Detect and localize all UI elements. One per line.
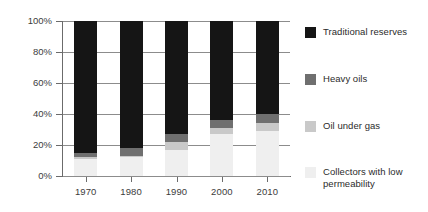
y-tick-label: 80% <box>6 47 52 57</box>
legend-swatch-icon <box>305 27 316 38</box>
bar-2010 <box>256 21 279 176</box>
y-tick-label: 100% <box>6 16 52 26</box>
x-tick-label-1990: 1990 <box>154 187 200 197</box>
bar-segment <box>74 21 97 153</box>
bar-segment <box>120 148 143 156</box>
plot-area <box>63 21 290 176</box>
legend-item: Collectors with low permeability <box>305 166 403 189</box>
x-tick-mark <box>267 177 268 182</box>
bar-2000 <box>210 21 233 176</box>
legend-swatch-icon <box>305 74 316 85</box>
bar-segment <box>165 142 188 150</box>
x-tick-mark <box>177 177 178 182</box>
legend-item: Traditional reserves <box>305 26 407 38</box>
legend-label: Traditional reserves <box>323 26 407 38</box>
bar-1980 <box>120 21 143 176</box>
bar-segment <box>120 157 143 176</box>
bar-segment <box>210 120 233 128</box>
bar-segment <box>165 21 188 134</box>
bar-segment <box>165 150 188 176</box>
bar-segment <box>210 134 233 176</box>
bar-1990 <box>165 21 188 176</box>
legend-item: Heavy oils <box>305 73 367 85</box>
legend-swatch-icon <box>305 167 316 178</box>
legend-item: Oil under gas <box>305 120 380 132</box>
y-tick-label: 40% <box>6 109 52 119</box>
legend-label: Heavy oils <box>323 73 367 85</box>
x-tick-label-1980: 1980 <box>108 187 154 197</box>
y-tick-label: 0% <box>6 171 52 181</box>
bar-1970 <box>74 21 97 176</box>
chart-figure: 0%20%40%60%80%100% 19701980199020002010 … <box>0 0 428 212</box>
y-tick-label: 20% <box>6 140 52 150</box>
chart-legend: Traditional reservesHeavy oilsOil under … <box>305 0 428 212</box>
x-tick-mark <box>131 177 132 182</box>
x-tick-mark <box>86 177 87 182</box>
bar-segment <box>256 114 279 123</box>
bar-segment <box>165 134 188 142</box>
legend-label: Collectors with low permeability <box>323 166 403 189</box>
x-tick-label-2000: 2000 <box>199 187 245 197</box>
bar-segment <box>74 159 97 176</box>
x-tick-label-1970: 1970 <box>63 187 109 197</box>
legend-label: Oil under gas <box>323 120 380 132</box>
bar-segment <box>256 123 279 131</box>
y-tick-label: 60% <box>6 78 52 88</box>
x-tick-label-2010: 2010 <box>244 187 290 197</box>
bar-segment <box>210 21 233 120</box>
bar-segment <box>256 21 279 114</box>
legend-swatch-icon <box>305 121 316 132</box>
bar-segment <box>120 21 143 148</box>
x-tick-mark <box>222 177 223 182</box>
bar-segment <box>256 131 279 176</box>
